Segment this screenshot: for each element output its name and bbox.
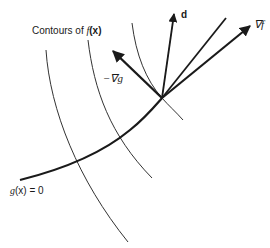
neg-grad-g-label: −∇g	[103, 72, 123, 84]
contour-line-3	[132, 23, 183, 120]
diagram-canvas: Contours of f(x) d ∇f −∇g g(x) = 0	[0, 0, 270, 248]
contour-line-2	[88, 40, 152, 178]
constraint-label: g(x) = 0	[10, 185, 44, 196]
grad-f-vector	[162, 26, 250, 98]
contours-label: Contours of f(x)	[32, 25, 102, 36]
grad-f-label: ∇f	[254, 18, 266, 30]
constraint-curve	[20, 98, 162, 180]
d-label: d	[181, 9, 187, 20]
